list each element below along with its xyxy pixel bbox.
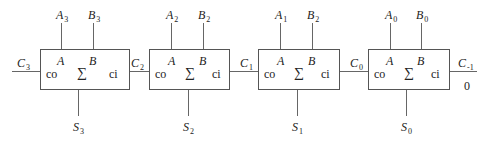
input-label-b0: B0: [416, 9, 428, 26]
output-label-s1: S1: [292, 121, 303, 138]
output-wire-s2: [188, 90, 189, 116]
sum-symbol: ∑: [404, 67, 414, 79]
carry-label-c3: C3: [17, 57, 30, 74]
sum-symbol: ∑: [185, 67, 195, 79]
pin-co: co: [155, 68, 166, 80]
pin-co: co: [374, 68, 385, 80]
sum-symbol: ∑: [77, 67, 87, 79]
pin-ci: ci: [212, 68, 221, 80]
output-label-s0: S0: [401, 121, 412, 138]
input-wire-b1: [312, 23, 313, 49]
pin-co: co: [46, 68, 57, 80]
input-wire-a2: [171, 23, 172, 49]
output-wire-s0: [406, 90, 407, 116]
output-label-s2: S2: [183, 121, 194, 138]
full-adder-block-3: A B co ∑ ci: [40, 49, 130, 90]
input-wire-b3: [93, 23, 94, 49]
pin-b: B: [417, 55, 424, 67]
input-label-b2: B2: [198, 9, 210, 26]
carry-label-c2: C2: [131, 57, 144, 74]
input-label-a0: A0: [385, 9, 397, 26]
output-wire-s3: [78, 90, 79, 116]
pin-a: A: [57, 55, 64, 67]
pin-b: B: [89, 55, 96, 67]
pin-ci: ci: [109, 68, 118, 80]
sum-symbol: ∑: [294, 67, 304, 79]
input-wire-b2: [203, 23, 204, 49]
pin-a: A: [168, 55, 175, 67]
input-label-a3: A3: [56, 9, 68, 26]
input-wire-b0: [421, 23, 422, 49]
ripple-carry-adder-diagram: C3 C2 C1 C0 C-1 0 A3 B3 S3 A B co ∑ ci A…: [0, 0, 487, 143]
pin-a: A: [277, 55, 284, 67]
output-label-s3: S3: [73, 121, 84, 138]
pin-ci: ci: [431, 68, 440, 80]
carry-in-value: 0: [464, 80, 470, 92]
input-label-b1: B2: [307, 9, 319, 26]
input-label-b3: B3: [88, 9, 100, 26]
full-adder-block-1: A B co ∑ ci: [258, 49, 340, 90]
pin-ci: ci: [321, 68, 330, 80]
input-label-a1: A1: [275, 9, 287, 26]
pin-a: A: [386, 55, 393, 67]
carry-label-c-1: C-1: [458, 57, 474, 74]
carry-label-c1: C1: [240, 57, 253, 74]
pin-b: B: [308, 55, 315, 67]
input-label-a2: A2: [166, 9, 178, 26]
full-adder-block-0: A B co ∑ ci: [368, 49, 450, 90]
pin-co: co: [264, 68, 275, 80]
input-wire-a0: [390, 23, 391, 49]
output-wire-s1: [297, 90, 298, 116]
input-wire-a3: [61, 23, 62, 49]
full-adder-block-2: A B co ∑ ci: [149, 49, 230, 90]
input-wire-a1: [280, 23, 281, 49]
pin-b: B: [199, 55, 206, 67]
carry-label-c0: C0: [350, 57, 363, 74]
